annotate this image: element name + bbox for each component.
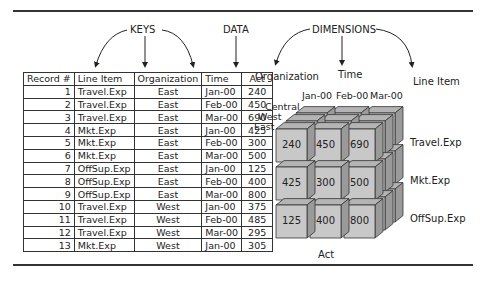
cube-cell-value: 800: [345, 215, 375, 226]
cube-cell-value: 300: [311, 177, 341, 188]
cube-line-travel: Travel.Exp: [410, 137, 462, 148]
cube-cell-value: 690: [345, 139, 375, 150]
cube-line-mkt: Mkt.Exp: [410, 175, 450, 186]
cube-cell-value: 400: [311, 215, 341, 226]
cube-cell-value: 240: [277, 139, 307, 150]
cube-org-east: East: [254, 121, 275, 132]
cube-cell-value: 125: [277, 215, 307, 226]
cube-cell-value: 450: [311, 139, 341, 150]
cube-line-offsup: OffSup.Exp: [410, 213, 466, 224]
cube-time-jan: Jan-00: [302, 90, 332, 101]
cube-cell-value: 500: [345, 177, 375, 188]
cube-cell-value: 425: [277, 177, 307, 188]
cube-time-feb: Feb-00: [336, 90, 368, 101]
cube-time-mar: Mar-00: [370, 90, 403, 101]
cube-measure-label: Act: [318, 249, 334, 260]
